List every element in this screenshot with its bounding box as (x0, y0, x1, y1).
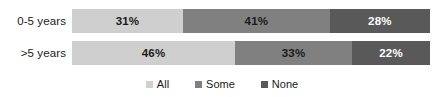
bar-track-1: 46% 33% 22% (72, 41, 430, 65)
chart-legend: All Some None (0, 74, 444, 94)
bar-segment-some-1[interactable]: 33% (235, 41, 352, 65)
legend-swatch-icon-none (261, 81, 268, 88)
category-label-0: 0-5 years (0, 9, 72, 33)
bar-segment-value-none-1: 22% (379, 47, 403, 59)
legend-label-all: All (157, 78, 169, 90)
bar-segment-value-none-0: 28% (368, 15, 392, 27)
legend-swatch-icon-all (146, 81, 153, 88)
bar-segment-value-all-0: 31% (116, 15, 140, 27)
legend-item-none[interactable]: None (261, 78, 298, 90)
stacked-bar-chart: 0-5 years 31% 41% 28% >5 years 46% (0, 0, 444, 97)
table-row: 0-5 years 31% 41% 28% (0, 9, 444, 33)
bar-segment-value-some-1: 33% (282, 47, 306, 59)
table-row: >5 years 46% 33% 22% (0, 41, 444, 65)
plot-area: 0-5 years 31% 41% 28% >5 years 46% (0, 0, 444, 72)
legend-item-some[interactable]: Some (195, 78, 235, 90)
legend-label-some: Some (206, 78, 235, 90)
bar-segment-all-0[interactable]: 31% (72, 9, 183, 33)
bar-segment-value-all-1: 46% (142, 47, 166, 59)
bar-track-0: 31% 41% 28% (72, 9, 430, 33)
bar-segment-value-some-0: 41% (245, 15, 269, 27)
legend-swatch-icon-some (195, 81, 202, 88)
bar-segment-all-1[interactable]: 46% (72, 41, 235, 65)
bar-segment-some-0[interactable]: 41% (183, 9, 330, 33)
bar-segment-none-0[interactable]: 28% (330, 9, 430, 33)
legend-item-all[interactable]: All (146, 78, 169, 90)
bar-segment-none-1[interactable]: 22% (352, 41, 430, 65)
legend-label-none: None (272, 78, 298, 90)
category-label-1: >5 years (0, 41, 72, 65)
